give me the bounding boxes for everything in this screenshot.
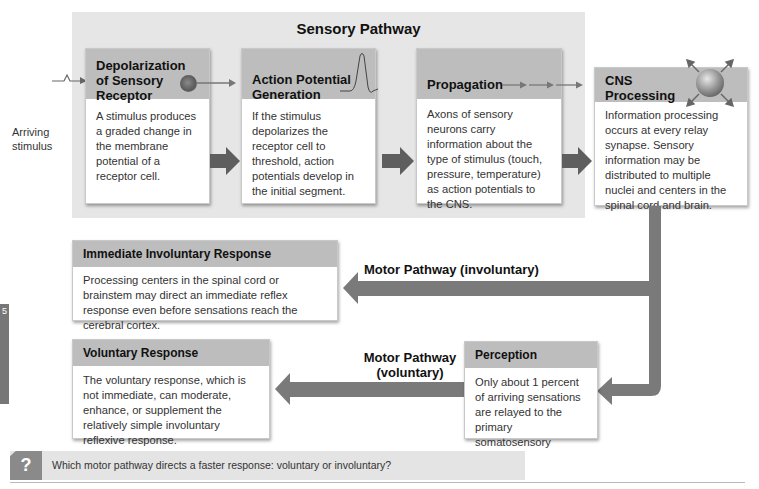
immediate-involuntary-response-box: Immediate Involuntary Response Processin… xyxy=(72,240,338,321)
question-mark-icon: ? xyxy=(10,451,42,480)
label-line: Motor Pathway xyxy=(355,350,465,365)
motor-pathway-voluntary-label: Motor Pathway (voluntary) xyxy=(355,350,465,380)
divider-line xyxy=(10,482,745,483)
voluntary-response-body: The voluntary response, which is not imm… xyxy=(73,366,269,456)
question-text: Which motor pathway directs a faster res… xyxy=(52,459,391,471)
immediate-response-body: Processing centers in the spinal cord or… xyxy=(73,267,337,341)
motor-pathway-involuntary-label: Motor Pathway (involuntary) xyxy=(364,262,539,277)
immediate-response-header: Immediate Involuntary Response xyxy=(73,241,337,267)
perception-header: Perception xyxy=(465,342,597,368)
perception-box: Perception Only about 1 percent of arriv… xyxy=(464,341,598,439)
label-line: (voluntary) xyxy=(355,365,465,380)
voluntary-response-header: Voluntary Response xyxy=(73,340,269,366)
voluntary-response-box: Voluntary Response The voluntary respons… xyxy=(72,339,270,439)
